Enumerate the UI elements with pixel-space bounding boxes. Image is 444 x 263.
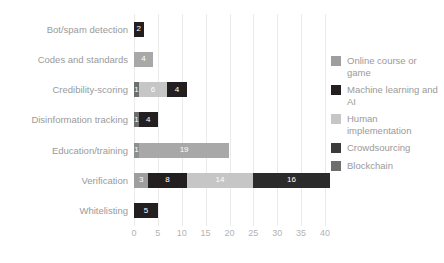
x-axis-tick: 35 bbox=[296, 228, 306, 238]
x-axis-tick: 20 bbox=[224, 228, 234, 238]
bar-segment-value: 8 bbox=[165, 176, 169, 184]
y-axis-label: Verification bbox=[82, 165, 128, 195]
bar-segment: 14 bbox=[187, 173, 254, 188]
bar-row: 4 bbox=[134, 44, 325, 74]
bar-segment-value: 5 bbox=[144, 207, 148, 215]
bar-segment: 4 bbox=[167, 82, 186, 97]
x-axis-tick: 15 bbox=[201, 228, 211, 238]
legend-item[interactable]: Human implementation bbox=[331, 113, 441, 136]
bar-segment-value: 6 bbox=[151, 86, 155, 94]
legend-item[interactable]: Machine learning and AI bbox=[331, 84, 441, 107]
legend-item[interactable]: Blockchain bbox=[331, 160, 441, 172]
legend-item[interactable]: Crowdsourcing bbox=[331, 142, 441, 154]
bar-row: 2 bbox=[134, 14, 325, 44]
stacked-bar: 14 bbox=[134, 112, 158, 127]
chart-legend: Online course or gameMachine learning an… bbox=[331, 55, 441, 177]
legend-swatch-icon bbox=[331, 85, 341, 95]
bar-row: 14 bbox=[134, 105, 325, 135]
bar-segment: 4 bbox=[139, 112, 158, 127]
bar-segment: 4 bbox=[134, 52, 153, 67]
stacked-bar: 119 bbox=[134, 143, 229, 158]
bar-segment-value: 19 bbox=[180, 146, 189, 154]
x-axis-tick: 30 bbox=[272, 228, 282, 238]
legend-swatch-icon bbox=[331, 143, 341, 153]
bar-segment-value: 4 bbox=[146, 116, 150, 124]
y-axis-label: Education/training bbox=[52, 135, 128, 165]
bar-segment: 3 bbox=[134, 173, 148, 188]
legend-label: Machine learning and AI bbox=[347, 84, 441, 107]
bar-segment: 8 bbox=[148, 173, 186, 188]
bar-segment: 2 bbox=[134, 22, 144, 37]
bar-row: 164 bbox=[134, 75, 325, 105]
legend-label: Human implementation bbox=[347, 113, 441, 136]
legend-swatch-icon bbox=[331, 114, 341, 124]
legend-swatch-icon bbox=[331, 56, 341, 66]
bar-segment-value: 16 bbox=[287, 176, 296, 184]
plot-area: 24164141193814165 bbox=[134, 14, 325, 226]
x-axis-tick: 5 bbox=[155, 228, 160, 238]
bar-row: 381416 bbox=[134, 165, 325, 195]
stacked-bar: 2 bbox=[134, 22, 144, 37]
y-axis-label: Whitelisting bbox=[79, 196, 128, 226]
x-axis-tick: 10 bbox=[177, 228, 187, 238]
stacked-bar: 4 bbox=[134, 52, 153, 67]
stacked-bar: 381416 bbox=[134, 173, 330, 188]
stacked-bar-chart: Bot/spam detectionCodes and standardsCre… bbox=[0, 0, 444, 263]
y-axis-category-labels: Bot/spam detectionCodes and standardsCre… bbox=[0, 14, 128, 226]
y-axis-label: Disinformation tracking bbox=[31, 105, 128, 135]
bar-segment-value: 2 bbox=[137, 25, 141, 33]
bar-segment: 5 bbox=[134, 203, 158, 218]
legend-label: Crowdsourcing bbox=[347, 142, 410, 154]
bar-segment: 19 bbox=[139, 143, 230, 158]
bar-segment-value: 4 bbox=[141, 55, 145, 63]
gridline bbox=[325, 14, 326, 226]
y-axis-label: Codes and standards bbox=[38, 44, 128, 74]
x-axis-tick: 0 bbox=[131, 228, 136, 238]
bar-row: 5 bbox=[134, 196, 325, 226]
bar-segment: 6 bbox=[139, 82, 168, 97]
legend-swatch-icon bbox=[331, 161, 341, 171]
legend-item[interactable]: Online course or game bbox=[331, 55, 441, 78]
bar-segment: 16 bbox=[253, 173, 329, 188]
y-axis-label: Credibility-scoring bbox=[53, 75, 129, 105]
y-axis-label: Bot/spam detection bbox=[47, 14, 128, 44]
bar-segment-value: 14 bbox=[215, 176, 224, 184]
stacked-bar: 5 bbox=[134, 203, 158, 218]
legend-label: Online course or game bbox=[347, 55, 441, 78]
x-axis-tick: 25 bbox=[248, 228, 258, 238]
bar-row: 119 bbox=[134, 135, 325, 165]
bar-segment-value: 3 bbox=[139, 176, 143, 184]
stacked-bar: 164 bbox=[134, 82, 187, 97]
bar-segment-value: 4 bbox=[175, 86, 179, 94]
x-axis-tick-labels: 0510152025303540 bbox=[134, 228, 325, 244]
legend-label: Blockchain bbox=[347, 160, 393, 172]
x-axis-tick: 40 bbox=[320, 228, 330, 238]
